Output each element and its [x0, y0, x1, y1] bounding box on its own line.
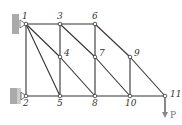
- node-6: [93, 22, 97, 26]
- node-label-2: 2: [22, 98, 29, 108]
- node-label-9: 9: [134, 48, 140, 58]
- wall-support-top: [12, 14, 19, 34]
- node-label-1: 1: [22, 11, 28, 21]
- node-11: [163, 94, 167, 98]
- truss-diagram: 1234567891011 P: [0, 0, 182, 125]
- node-label-10: 10: [125, 98, 137, 108]
- roller-icon: [18, 88, 20, 104]
- node-label-6: 6: [92, 11, 98, 21]
- node-label-3: 3: [57, 11, 63, 21]
- load-arrow: P: [162, 98, 176, 120]
- node-7: [93, 55, 97, 59]
- node-labels: 1234567891011: [22, 11, 181, 108]
- node-9: [128, 55, 132, 59]
- node-label-7: 7: [99, 48, 105, 58]
- member-4-8: [60, 57, 95, 96]
- node-1: [24, 22, 28, 26]
- node-label-4: 4: [63, 48, 70, 58]
- node-3: [58, 22, 62, 26]
- node-label-5: 5: [57, 98, 63, 108]
- node-label-8: 8: [92, 98, 98, 108]
- member-9-11: [130, 57, 165, 96]
- node-4: [58, 55, 62, 59]
- node-label-11: 11: [170, 89, 181, 99]
- arrow-down-icon: [162, 112, 168, 118]
- load-label: P: [170, 110, 176, 120]
- member-7-10: [95, 57, 130, 96]
- wall-support-bottom: [10, 88, 17, 104]
- truss-members: [26, 24, 165, 96]
- member-1-5: [26, 24, 60, 96]
- member-1-4: [26, 24, 60, 57]
